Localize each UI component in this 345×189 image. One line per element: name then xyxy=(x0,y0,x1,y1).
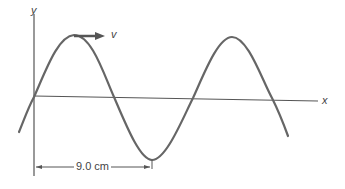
y-axis-label: y xyxy=(31,4,37,16)
x-axis-label: x xyxy=(322,94,328,106)
velocity-label: v xyxy=(111,28,117,40)
wavelength-dimension-label: 9.0 cm xyxy=(74,160,111,172)
velocity-arrow-icon xyxy=(74,32,105,40)
wave-curve xyxy=(19,35,288,160)
wave-diagram xyxy=(0,0,345,189)
x-axis xyxy=(34,96,318,101)
